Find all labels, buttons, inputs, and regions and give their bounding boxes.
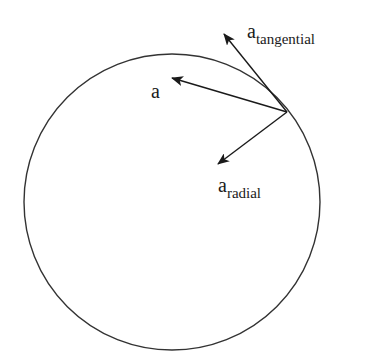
label-radial-acceleration: aradial bbox=[218, 174, 261, 201]
acceleration-diagram: a atangential aradial bbox=[0, 0, 378, 363]
label-total-acceleration: a bbox=[151, 80, 160, 102]
label-radial-subscript: radial bbox=[227, 185, 261, 201]
total-acceleration-arrow bbox=[172, 78, 287, 112]
label-a-base: a bbox=[151, 80, 160, 102]
label-tangential-subscript: tangential bbox=[256, 31, 315, 47]
label-radial-base: a bbox=[218, 174, 227, 196]
label-tangential-base: a bbox=[247, 20, 256, 42]
label-tangential-acceleration: atangential bbox=[247, 20, 315, 47]
radial-acceleration-arrow bbox=[218, 112, 287, 164]
